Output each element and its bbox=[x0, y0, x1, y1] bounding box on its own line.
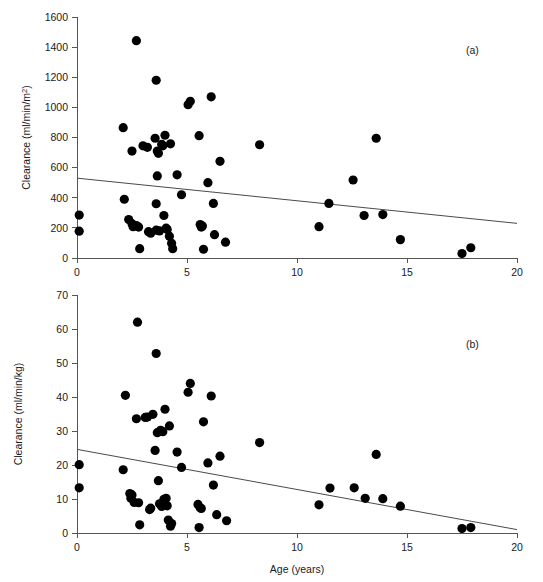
y-tick-label: 1000 bbox=[45, 101, 69, 113]
data-point bbox=[135, 244, 144, 253]
y-tick-label: 0 bbox=[62, 252, 68, 264]
data-point bbox=[75, 460, 84, 469]
data-point bbox=[215, 157, 224, 166]
data-point bbox=[203, 458, 212, 467]
data-point bbox=[148, 410, 157, 419]
data-point bbox=[324, 199, 333, 208]
data-point bbox=[466, 523, 475, 532]
data-point bbox=[132, 414, 141, 423]
data-point bbox=[173, 447, 182, 456]
data-point bbox=[160, 131, 169, 140]
regression-line bbox=[77, 178, 517, 223]
y-tick-label: 10 bbox=[56, 493, 68, 505]
data-point bbox=[457, 524, 466, 533]
regression-line bbox=[77, 449, 517, 529]
data-point bbox=[151, 446, 160, 455]
y-tick-label: 800 bbox=[50, 131, 68, 143]
data-point bbox=[152, 76, 161, 85]
data-point bbox=[177, 190, 186, 199]
data-point bbox=[215, 452, 224, 461]
data-point bbox=[255, 438, 264, 447]
data-point bbox=[207, 391, 216, 400]
data-point bbox=[361, 494, 370, 503]
data-point bbox=[152, 199, 161, 208]
scatter-panel-b: 01020304050607005101520Clearance (ml/min… bbox=[0, 291, 543, 582]
x-tick-label: 5 bbox=[184, 541, 190, 553]
y-axis-title: Clearance (ml/min/kg) bbox=[12, 363, 24, 466]
panel-tag: (b) bbox=[466, 338, 479, 350]
y-tick-label: 600 bbox=[50, 161, 68, 173]
panel-tag: (a) bbox=[466, 44, 479, 56]
data-point bbox=[177, 463, 186, 472]
data-point bbox=[163, 501, 172, 510]
y-tick-label: 1600 bbox=[45, 11, 69, 23]
x-tick-label: 20 bbox=[511, 541, 523, 553]
y-tick-label: 50 bbox=[56, 357, 68, 369]
data-point bbox=[152, 349, 161, 358]
data-point bbox=[396, 502, 405, 511]
data-point bbox=[195, 131, 204, 140]
x-tick-label: 10 bbox=[291, 266, 303, 278]
data-point bbox=[195, 523, 204, 532]
data-point bbox=[184, 388, 193, 397]
y-tick-label: 20 bbox=[56, 459, 68, 471]
data-point bbox=[75, 210, 84, 219]
x-tick-label: 0 bbox=[74, 266, 80, 278]
data-point bbox=[209, 480, 218, 489]
data-point bbox=[159, 211, 168, 220]
data-point bbox=[143, 143, 152, 152]
data-point bbox=[372, 450, 381, 459]
plot-area-b: 01020304050607005101520Clearance (ml/min… bbox=[0, 291, 543, 582]
data-point bbox=[133, 318, 142, 327]
data-point bbox=[121, 391, 130, 400]
data-point bbox=[173, 170, 182, 179]
data-point bbox=[199, 417, 208, 426]
data-point bbox=[146, 504, 155, 513]
data-point bbox=[396, 235, 405, 244]
data-point bbox=[212, 510, 221, 519]
data-point bbox=[158, 141, 167, 150]
data-point bbox=[134, 498, 143, 507]
x-axis-title: Age (years) bbox=[270, 563, 324, 575]
x-tick-label: 0 bbox=[74, 541, 80, 553]
data-point bbox=[160, 405, 169, 414]
data-point bbox=[466, 243, 475, 252]
data-point bbox=[325, 484, 334, 493]
data-point bbox=[378, 210, 387, 219]
data-point bbox=[314, 222, 323, 231]
data-point bbox=[457, 249, 466, 258]
x-tick-label: 20 bbox=[511, 266, 523, 278]
scatter-panel-a: 0200400600800100012001400160005101520Cle… bbox=[0, 0, 543, 291]
data-point bbox=[209, 199, 218, 208]
data-point bbox=[154, 476, 163, 485]
data-point bbox=[135, 520, 144, 529]
y-tick-label: 400 bbox=[50, 192, 68, 204]
data-point bbox=[120, 195, 129, 204]
y-tick-label: 60 bbox=[56, 323, 68, 335]
data-point bbox=[314, 500, 323, 509]
data-point bbox=[199, 245, 208, 254]
data-point bbox=[119, 123, 128, 132]
y-tick-label: 0 bbox=[62, 527, 68, 539]
data-point bbox=[186, 379, 195, 388]
y-tick-label: 1400 bbox=[45, 41, 69, 53]
y-tick-label: 30 bbox=[56, 425, 68, 437]
data-point bbox=[134, 223, 143, 232]
plot-area-a: 0200400600800100012001400160005101520Cle… bbox=[0, 0, 543, 291]
data-point bbox=[186, 97, 195, 106]
data-point bbox=[153, 171, 162, 180]
data-point bbox=[350, 483, 359, 492]
data-point bbox=[372, 134, 381, 143]
x-tick-label: 15 bbox=[401, 541, 413, 553]
data-point bbox=[255, 140, 264, 149]
data-point bbox=[119, 465, 128, 474]
data-point bbox=[221, 238, 230, 247]
x-tick-label: 15 bbox=[401, 266, 413, 278]
data-point bbox=[127, 146, 136, 155]
data-point bbox=[132, 36, 141, 45]
x-tick-label: 5 bbox=[184, 266, 190, 278]
data-point bbox=[198, 221, 207, 230]
data-point bbox=[165, 421, 174, 430]
y-tick-label: 70 bbox=[56, 291, 68, 301]
data-point bbox=[75, 227, 84, 236]
